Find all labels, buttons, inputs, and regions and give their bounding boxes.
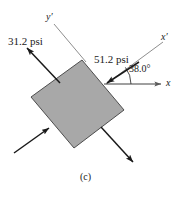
figure-canvas: [0, 0, 179, 197]
axis-label-x-prime: x′: [161, 32, 168, 42]
figure-caption: (c): [80, 172, 91, 182]
stress-element-figure: 31.2 psi 51.2 psi 38.0° y′ x′ x (c): [0, 0, 179, 197]
axis-label-x: x: [166, 78, 170, 88]
arrow-stress-31-lower-right: [101, 127, 133, 162]
stress-element-square: [31, 60, 124, 148]
arrow-stress-51-lower-left: [14, 128, 49, 153]
stress-label-right: 51.2 psi: [94, 54, 129, 65]
axis-y-prime: [54, 24, 86, 62]
axis-label-y-prime: y′: [46, 12, 53, 22]
stress-label-left: 31.2 psi: [8, 36, 43, 47]
angle-label: 38.0°: [129, 64, 151, 74]
arrow-stress-31-upper-left: [27, 48, 60, 83]
